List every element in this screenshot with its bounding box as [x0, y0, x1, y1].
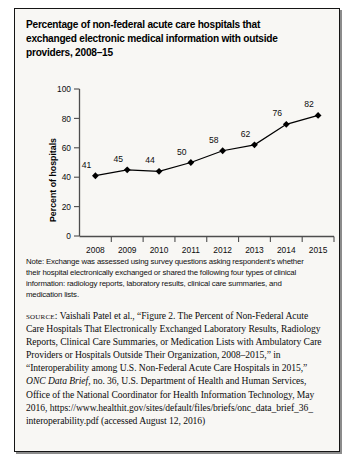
svg-text:2009: 2009: [118, 245, 137, 255]
svg-text:44: 44: [145, 155, 155, 165]
svg-text:2014: 2014: [277, 245, 296, 255]
svg-text:41: 41: [82, 160, 92, 170]
svg-text:100: 100: [57, 84, 71, 94]
svg-text:2010: 2010: [150, 245, 169, 255]
x-axis-ticks: [111, 237, 334, 243]
svg-text:82: 82: [304, 99, 314, 109]
svg-text:60: 60: [62, 143, 72, 153]
line-chart: Percent of hospitals 020406080100 200820…: [15, 61, 339, 259]
figure-title: Percentage of non-federal acute care hos…: [26, 17, 313, 60]
y-axis-title: Percent of hospitals: [48, 138, 58, 222]
svg-text:40: 40: [62, 172, 72, 182]
source-publication-title: ONC Data Brief: [26, 375, 88, 386]
svg-text:2011: 2011: [182, 245, 200, 255]
figure-source: source: Vaishali Patel et al., “Figure 2…: [26, 309, 328, 427]
svg-text:50: 50: [177, 147, 187, 157]
x-axis-labels: 20082009201020112012201320142015: [86, 245, 328, 255]
svg-text:0: 0: [66, 231, 71, 241]
svg-text:62: 62: [241, 129, 251, 139]
figure-note: Note: Exchange was assessed using survey…: [26, 256, 317, 300]
svg-text:2008: 2008: [86, 245, 105, 255]
svg-text:58: 58: [209, 135, 219, 145]
svg-text:80: 80: [62, 114, 72, 124]
svg-text:45: 45: [113, 154, 123, 164]
svg-text:20: 20: [62, 202, 72, 212]
svg-text:2013: 2013: [245, 245, 264, 255]
data-value-labels: 4145445058627682: [82, 99, 314, 169]
svg-text:76: 76: [273, 108, 283, 118]
data-point-markers: [92, 112, 321, 179]
chart-region: Percent of hospitals 020406080100 200820…: [15, 61, 339, 259]
svg-text:2015: 2015: [309, 245, 328, 255]
figure-container: Percentage of non-federal acute care hos…: [14, 8, 340, 452]
source-text-part1: Vaishali Patel et al., “Figure 2. The Pe…: [26, 310, 322, 373]
note-text: Exchange was assessed using survey quest…: [26, 257, 304, 299]
source-label: source:: [26, 310, 58, 321]
svg-text:2012: 2012: [213, 245, 232, 255]
y-axis-ticks: 020406080100: [57, 84, 79, 241]
note-label: Note:: [26, 257, 44, 266]
